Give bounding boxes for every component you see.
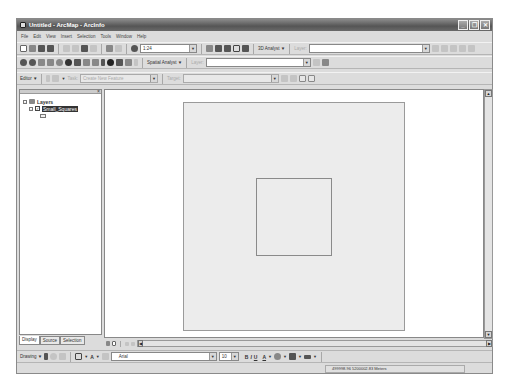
chevron-down-icon[interactable]: ▼ [271, 75, 278, 82]
command-line-icon[interactable] [233, 45, 240, 52]
chevron-down-icon[interactable]: ▼ [231, 353, 238, 360]
spatial-analyst-menu[interactable]: Spatial Analyst ▼ [147, 60, 182, 65]
paste-icon[interactable] [81, 45, 88, 52]
pan-icon[interactable] [56, 59, 63, 66]
scroll-left-button[interactable]: ◀ [138, 340, 143, 347]
arctoolbox-icon[interactable] [215, 45, 222, 52]
back-icon[interactable] [74, 59, 81, 66]
rotate-tool-icon[interactable] [290, 75, 297, 82]
3d-tool-icon[interactable] [459, 45, 466, 52]
chevron-down-icon[interactable]: ▼ [422, 45, 429, 52]
tab-selection[interactable]: Selection [60, 336, 85, 345]
menu-file[interactable]: File [21, 34, 28, 39]
menu-tools[interactable]: Tools [101, 34, 112, 39]
layout-view-icon[interactable] [112, 341, 116, 346]
close-button[interactable]: ✕ [480, 20, 490, 30]
editor-menu[interactable]: Editor ▼ [20, 76, 37, 81]
spatial-layer-combo[interactable]: ▼ [206, 58, 311, 67]
data-view-icon[interactable] [106, 341, 110, 346]
zoom-out-icon[interactable] [29, 59, 36, 66]
cut-icon[interactable] [63, 45, 70, 52]
print-icon[interactable] [47, 45, 54, 52]
collapse-icon[interactable]: - [23, 100, 27, 104]
select-elements-icon[interactable] [44, 353, 48, 360]
delete-icon[interactable] [90, 45, 97, 52]
chevron-down-icon[interactable]: ▼ [189, 45, 196, 52]
underline-button[interactable]: U [254, 354, 258, 360]
drawing-menu[interactable]: Drawing ▼ [20, 354, 42, 359]
full-extent-icon[interactable] [65, 59, 72, 66]
refresh-icon[interactable] [125, 342, 129, 346]
3d-analyst-menu[interactable]: 3D Analyst ▼ [258, 46, 285, 51]
scroll-up-button[interactable]: ▲ [485, 90, 492, 97]
undo-icon[interactable] [106, 45, 113, 52]
map-scale-combo[interactable]: 1:24 ▼ [140, 44, 197, 53]
raster-icon[interactable] [322, 59, 329, 66]
collapse-icon[interactable]: - [29, 107, 33, 111]
menu-view[interactable]: View [46, 34, 56, 39]
menu-insert[interactable]: Insert [61, 34, 72, 39]
3d-tool-icon[interactable] [432, 45, 439, 52]
font-color-dropdown-icon[interactable]: ▼ [268, 354, 272, 359]
3d-tool-icon[interactable] [441, 45, 448, 52]
sketch-properties-icon[interactable] [308, 75, 315, 82]
pause-draw-icon[interactable] [131, 342, 135, 346]
layer-visibility-checkbox[interactable]: ✓ [35, 106, 40, 111]
tab-source[interactable]: Source [40, 336, 60, 345]
target-combo[interactable]: ▼ [183, 74, 279, 83]
restore-button[interactable]: ❐ [469, 20, 479, 30]
zoom-in-icon[interactable] [20, 59, 27, 66]
line-color-dropdown-icon[interactable]: ▼ [298, 354, 302, 359]
save-icon[interactable] [38, 45, 45, 52]
tab-display[interactable]: Display [19, 336, 40, 345]
task-combo[interactable]: Create New Feature ▼ [80, 74, 158, 83]
italic-button[interactable]: I [250, 354, 251, 360]
marker-color-dropdown-icon[interactable]: ▼ [313, 354, 317, 359]
chevron-down-icon[interactable]: ▼ [303, 59, 310, 66]
layers-root-label[interactable]: Layers [37, 99, 53, 105]
new-icon[interactable] [20, 45, 27, 52]
hyperlink-icon[interactable] [134, 59, 138, 66]
menu-window[interactable]: Window [116, 34, 132, 39]
3d-tool-icon[interactable] [450, 45, 457, 52]
menu-help[interactable]: Help [137, 34, 146, 39]
fill-color-dropdown-icon[interactable]: ▼ [283, 354, 287, 359]
whats-this-icon[interactable] [242, 45, 249, 52]
sketch-tool-icon[interactable] [52, 75, 59, 82]
add-data-icon[interactable] [131, 45, 138, 52]
identify-icon[interactable] [107, 59, 114, 66]
line-color-icon[interactable] [289, 353, 296, 360]
marker-color-icon[interactable] [304, 355, 311, 359]
bold-button[interactable]: B [245, 354, 249, 360]
font-combo[interactable]: Arial ▼ [111, 352, 217, 361]
inner-square-polygon[interactable] [256, 178, 332, 256]
rectangle-icon[interactable] [75, 353, 82, 360]
zoom-whole-page-icon[interactable] [59, 353, 66, 360]
3d-tool-icon[interactable] [468, 45, 475, 52]
close-icon[interactable]: × [97, 88, 100, 94]
layer-name[interactable]: Small_Squares [42, 106, 78, 112]
layer-row[interactable]: - ✓ Small_Squares [23, 105, 78, 112]
sketch-dropdown-icon[interactable]: ▼ [61, 76, 65, 81]
select-elements-icon[interactable] [101, 59, 105, 66]
text-dropdown-icon[interactable]: ▼ [96, 354, 100, 359]
arccatalog-icon[interactable] [224, 45, 231, 52]
chevron-down-icon[interactable]: ▼ [209, 353, 216, 360]
font-color-button[interactable]: A [262, 354, 266, 360]
scroll-right-button[interactable]: ▶ [486, 340, 492, 347]
select-features-icon[interactable] [92, 59, 99, 66]
split-tool-icon[interactable] [281, 75, 288, 82]
menu-selection[interactable]: Selection [77, 34, 96, 39]
minimize-button[interactable]: _ [458, 20, 468, 30]
vertical-scrollbar[interactable]: ▲ ▼ [484, 89, 493, 339]
fixed-zoom-out-icon[interactable] [47, 59, 54, 66]
map-view[interactable] [104, 89, 484, 338]
polygon-symbol-icon[interactable] [40, 114, 46, 118]
histogram-icon[interactable] [313, 59, 320, 66]
edit-vertices-icon[interactable] [102, 353, 109, 360]
scroll-down-button[interactable]: ▼ [485, 331, 492, 338]
horizontal-scrollbar[interactable]: ◀ ▶ [137, 340, 493, 347]
3d-layer-combo[interactable]: ▼ [309, 44, 430, 53]
rotate-icon[interactable] [50, 353, 57, 360]
edit-tool-icon[interactable] [46, 75, 50, 82]
